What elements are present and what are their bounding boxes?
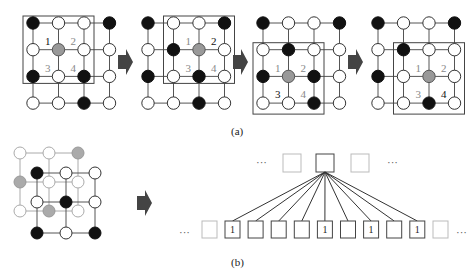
grid-node	[167, 44, 179, 56]
cell-label: 2	[441, 62, 447, 74]
ellipsis: ···	[179, 226, 190, 238]
grid-node	[72, 176, 84, 188]
grid-node	[218, 44, 230, 56]
cell-label: 3	[45, 62, 51, 74]
back-grid	[14, 147, 84, 217]
grid-node	[103, 17, 115, 29]
grid-node	[14, 147, 26, 159]
grid-node	[52, 44, 64, 56]
grid-node	[72, 205, 84, 217]
grid-node	[78, 17, 90, 29]
cell-label: 1	[275, 62, 281, 74]
grid-node	[423, 17, 435, 29]
grid-node	[31, 167, 43, 179]
grid-node	[14, 205, 26, 217]
grid-node	[333, 44, 345, 56]
grid-node	[60, 167, 72, 179]
grid-node	[397, 97, 409, 109]
connection-line	[279, 172, 325, 221]
cell-label: 4	[211, 62, 217, 74]
ellipsis: ···	[256, 156, 267, 168]
grid-node	[167, 17, 179, 29]
grid-node	[52, 17, 64, 29]
grid-node	[60, 227, 72, 239]
grid-step-3: 1234	[253, 17, 346, 114]
caption-b: (b)	[231, 256, 244, 269]
cell-label: 1	[45, 35, 51, 47]
grid-node	[397, 70, 409, 82]
grid-node	[282, 17, 294, 29]
grid-node	[257, 17, 269, 29]
diagram-canvas: 1234123412341234 ·········1111··· (a) (b…	[0, 0, 475, 273]
cell-label: 1	[186, 35, 192, 47]
grid-node	[193, 70, 205, 82]
grid-node	[333, 97, 345, 109]
grid-node	[218, 70, 230, 82]
grid-node	[78, 44, 90, 56]
grid-node	[423, 70, 435, 82]
grid-node	[78, 97, 90, 109]
grid-step-4: 1234	[372, 17, 465, 114]
bottom-box	[294, 221, 309, 238]
top-box	[316, 154, 334, 172]
ellipsis: ···	[456, 226, 467, 238]
grid-node	[27, 70, 39, 82]
arrow-right-icon	[348, 49, 363, 75]
arrow-right-icon	[118, 49, 133, 75]
grid-node	[103, 97, 115, 109]
grid-node	[27, 97, 39, 109]
cell-label: 2	[301, 62, 307, 74]
grid-node	[257, 97, 269, 109]
grid-node	[282, 97, 294, 109]
box-value: 1	[230, 224, 235, 235]
grid-node	[423, 44, 435, 56]
grid-node	[218, 97, 230, 109]
grid-node	[282, 70, 294, 82]
grid-node	[448, 44, 460, 56]
cell-label: 4	[441, 88, 447, 100]
grid-node	[448, 97, 460, 109]
grid-node	[257, 70, 269, 82]
grid-node	[193, 17, 205, 29]
grid-node	[397, 44, 409, 56]
grid-node	[142, 44, 154, 56]
grid-node	[142, 17, 154, 29]
ellipsis: ···	[387, 156, 398, 168]
bottom-box-light	[202, 221, 217, 238]
grid-node	[43, 205, 55, 217]
bottom-box	[341, 221, 356, 238]
grid-node	[89, 167, 101, 179]
cell-label: 4	[301, 88, 307, 100]
bottom-box-light	[433, 221, 448, 238]
grid-node	[31, 196, 43, 208]
grid-node	[372, 17, 384, 29]
grid-node	[27, 44, 39, 56]
grid-node	[103, 44, 115, 56]
connection-line	[325, 172, 371, 221]
grid-node	[333, 70, 345, 82]
box-value: 1	[322, 224, 327, 235]
bottom-box	[248, 221, 263, 238]
grid-node	[60, 196, 72, 208]
grid-node	[167, 97, 179, 109]
top-box	[283, 154, 301, 172]
box-value: 1	[415, 224, 420, 235]
cell-label: 3	[416, 88, 422, 100]
grid-node	[333, 17, 345, 29]
grid-node	[193, 97, 205, 109]
cell-label: 2	[71, 35, 77, 47]
bottom-box	[387, 221, 402, 238]
connection-line	[325, 172, 348, 221]
grid-node	[78, 70, 90, 82]
grid-node	[448, 17, 460, 29]
grid-step-1: 1234	[23, 16, 116, 109]
grid-node	[257, 44, 269, 56]
arrow-right-icon	[137, 190, 152, 216]
panel-b: ·········1111···	[14, 147, 467, 239]
grid-node	[372, 44, 384, 56]
connection-line	[325, 172, 417, 221]
grid-node	[43, 176, 55, 188]
bottom-box	[271, 221, 286, 238]
cell-label: 4	[71, 62, 77, 74]
grid-node	[103, 70, 115, 82]
